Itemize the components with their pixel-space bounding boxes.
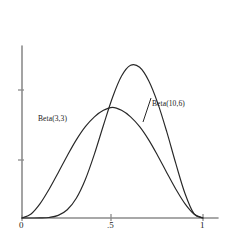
x-tick-label-0: 0 [19,221,24,230]
axes-group [18,46,218,221]
leader-beta-10-6 [143,98,151,122]
curve-annotation-beta-10-6: Beta(10,6) [152,100,185,108]
x-tick-label-1: 1 [200,221,205,230]
curve-beta-10-6 [22,65,203,218]
curves-group [22,65,203,218]
x-tick-label-half: .5 [107,221,114,230]
curve-annotation-beta-3-3: Beta(3,3) [38,115,67,123]
label-leaders [143,98,151,122]
beta-density-figure: 0 .5 1 Beta(3,3) Beta(10,6) [0,0,240,236]
plot-canvas [0,0,240,236]
